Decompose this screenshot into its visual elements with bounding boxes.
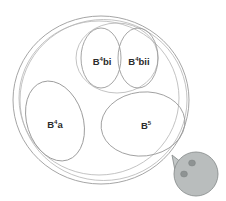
region-b5-label-sup: 5	[148, 120, 152, 126]
region-b4bi-label-suffix: bi	[103, 56, 111, 67]
venn-diagram-canvas: B4a B4bi B4bii B5	[0, 0, 226, 201]
ball-marker-spot-lower	[181, 171, 188, 177]
region-b4a-label: B4a	[47, 119, 63, 130]
region-b5-label: B5	[141, 120, 152, 131]
diagram-root: B4a B4bi B4bii B5	[0, 0, 226, 201]
region-b4bi-label: B4bi	[93, 56, 112, 67]
outer-boundary-inner-circle	[20, 20, 187, 181]
region-b4bii-label: B4bii	[128, 56, 149, 67]
region-b4a-label-suffix: a	[57, 119, 63, 130]
region-b4bii-label-suffix: bii	[139, 56, 150, 67]
outer-boundary-circle	[13, 16, 189, 184]
ball-marker-spot-upper	[189, 160, 196, 166]
